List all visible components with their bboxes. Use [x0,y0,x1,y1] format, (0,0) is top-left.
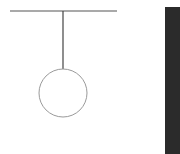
pendulum-figure [0,0,180,154]
dark-panel [165,7,180,154]
pendulum-bob [39,69,87,117]
pendulum-diagram [0,0,180,154]
